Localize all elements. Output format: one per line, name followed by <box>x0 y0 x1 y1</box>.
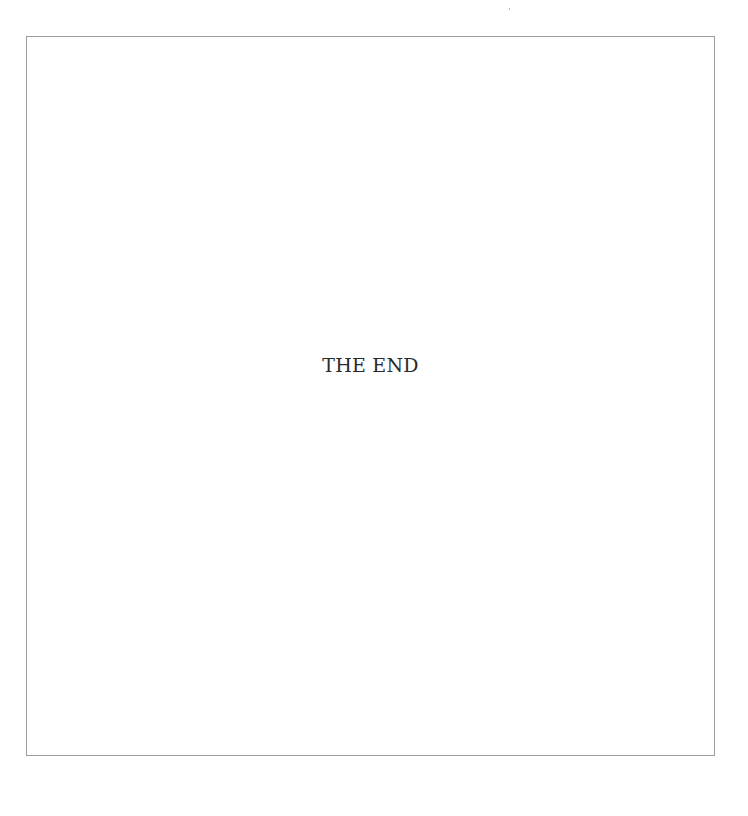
scan-speck <box>509 8 510 10</box>
page-frame: THE END <box>26 36 715 756</box>
end-text: THE END <box>27 354 714 376</box>
